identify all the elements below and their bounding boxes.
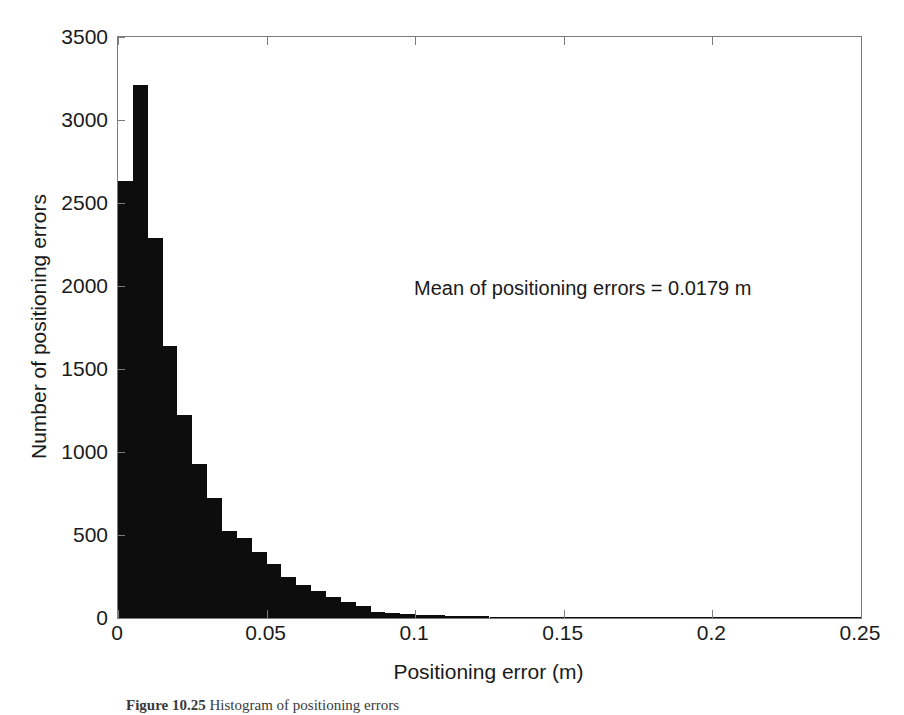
x-axis-tick-label: 0.15 (542, 622, 583, 643)
x-axis-tick-bottom (861, 610, 862, 618)
y-axis-tick-label: 2000 (61, 275, 108, 296)
x-axis-tick-top (861, 37, 862, 45)
histogram-bar (727, 617, 742, 618)
plot-area (117, 36, 862, 619)
x-axis-tick-label: 0.25 (840, 622, 881, 643)
x-axis-tick-label: 0.1 (400, 622, 429, 643)
histogram-bar (267, 564, 282, 618)
y-axis-tick-label: 3500 (61, 26, 108, 47)
figure-caption-label: Figure 10.25 (126, 697, 206, 713)
histogram-bar (430, 615, 445, 618)
x-axis-tick-bottom (267, 610, 268, 618)
histogram-bar (192, 464, 207, 618)
x-axis-tick-bottom (712, 610, 713, 618)
histogram-bar (623, 617, 638, 618)
y-axis-tick (118, 203, 125, 204)
x-axis-tick-bottom (564, 610, 565, 618)
mean-annotation-label: Mean of positioning errors = 0.0179 m (414, 276, 751, 300)
histogram-bar (534, 617, 549, 618)
y-axis-title: Number of positioning errors (26, 36, 52, 617)
histogram-bars (118, 37, 861, 618)
y-axis-tick (118, 618, 125, 619)
histogram-bar (802, 617, 817, 618)
figure-caption-text: Histogram of positioning errors (209, 697, 399, 713)
x-axis-tick-top (415, 37, 416, 45)
histogram-bar (148, 238, 163, 618)
histogram-bar (207, 498, 222, 618)
y-axis-tick (118, 535, 125, 536)
histogram-bar (608, 617, 623, 618)
histogram-bar (222, 531, 237, 618)
histogram-bar (742, 617, 757, 618)
y-axis-tick-label: 1500 (61, 358, 108, 379)
x-axis-tick-label: 0.2 (697, 622, 726, 643)
x-axis-tick-top (712, 37, 713, 45)
histogram-bar (831, 617, 846, 618)
histogram-bar (816, 617, 831, 618)
histogram-bar (668, 617, 683, 618)
histogram-bar (237, 538, 252, 618)
x-axis-tick-top (564, 37, 565, 45)
y-axis-tick-label: 0 (96, 607, 108, 628)
histogram-bar (118, 181, 133, 618)
histogram-bar (638, 617, 653, 618)
histogram-bar (846, 617, 861, 618)
histogram-bar (757, 617, 772, 618)
histogram-bar (579, 617, 594, 618)
histogram-bar (475, 616, 490, 618)
x-axis-tick-label: 0 (111, 622, 123, 643)
histogram-bar (252, 552, 267, 618)
histogram-bar (385, 613, 400, 618)
histogram-bar (415, 615, 430, 618)
histogram-bar (371, 612, 386, 618)
histogram-bar (772, 617, 787, 618)
x-axis-tick-top (118, 37, 119, 45)
x-axis-tick-bottom (118, 610, 119, 618)
histogram-bar (445, 616, 460, 618)
histogram-bar (177, 415, 192, 618)
y-axis-tick-label: 3000 (61, 109, 108, 130)
histogram-bar (653, 617, 668, 618)
histogram-bar (683, 617, 698, 618)
histogram-bar (594, 617, 609, 618)
histogram-bar (698, 617, 713, 618)
y-axis-tick-label: 2500 (61, 192, 108, 213)
histogram-bar (356, 606, 371, 618)
histogram-bar (549, 617, 564, 618)
histogram-bar (163, 346, 178, 618)
histogram-bar (296, 585, 311, 618)
histogram-bar (400, 614, 415, 618)
histogram-bar (326, 597, 341, 618)
y-axis-tick-label: 1000 (61, 441, 108, 462)
y-axis-tick (118, 286, 125, 287)
x-axis-tick-bottom (415, 610, 416, 618)
histogram-bar (490, 617, 505, 618)
y-axis-tick (118, 120, 125, 121)
histogram-bar (504, 617, 519, 618)
histogram-bar (311, 591, 326, 618)
y-axis-tick (118, 452, 125, 453)
y-axis-tick-label: 500 (73, 524, 108, 545)
histogram-bar (460, 616, 475, 618)
histogram-bar (341, 602, 356, 618)
histogram-bar (519, 617, 534, 618)
histogram-bar (787, 617, 802, 618)
histogram-bar (564, 617, 579, 618)
histogram-bar (281, 577, 296, 618)
x-axis-tick-top (267, 37, 268, 45)
y-axis-tick (118, 37, 125, 38)
histogram-bar (712, 617, 727, 618)
x-axis-title: Positioning error (m) (117, 660, 860, 684)
histogram-bar (133, 85, 148, 618)
x-axis-tick-label: 0.05 (245, 622, 286, 643)
figure-caption: Figure 10.25 Histogram of positioning er… (126, 696, 826, 715)
y-axis-tick (118, 369, 125, 370)
